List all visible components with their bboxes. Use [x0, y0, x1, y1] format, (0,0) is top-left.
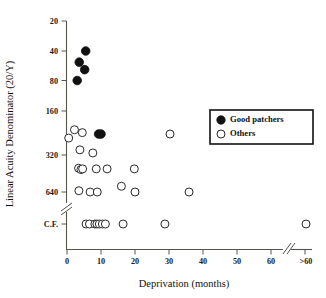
y-tick-label-cf: C.F. [44, 220, 58, 229]
data-point-other [75, 187, 83, 195]
x-axis-break-icon [283, 243, 295, 254]
x-tick-label-30: 30 [165, 257, 173, 266]
data-point-other [103, 165, 111, 173]
data-point-other [79, 165, 87, 173]
legend-marker-others [217, 130, 225, 138]
legend-label-good-patchers: Good patchers [230, 114, 284, 124]
x-tick-label-over60: >60 [300, 257, 313, 266]
scatter-chart: 20 40 80 160 320 640 C.F. 0 10 20 30 40 … [0, 0, 326, 298]
data-point-good-patcher [81, 47, 90, 56]
data-point-other [119, 220, 127, 228]
data-point-other [65, 134, 73, 142]
x-axis-title: Deprivation (months) [139, 278, 230, 290]
data-point-other [70, 126, 78, 134]
x-tick-label-60: 60 [267, 257, 275, 266]
legend-label-others: Others [230, 128, 256, 138]
legend-marker-good-patchers [217, 116, 225, 124]
y-tick-label-80: 80 [50, 77, 58, 86]
data-point-other [161, 220, 169, 228]
data-point-other [302, 220, 310, 228]
x-tick-label-0: 0 [65, 257, 69, 266]
data-point-other [130, 165, 138, 173]
y-tick-label-640: 640 [46, 188, 58, 197]
y-tick-label-320: 320 [46, 151, 58, 160]
legend: Good patchers Others [210, 110, 313, 144]
x-tick-label-10: 10 [97, 257, 105, 266]
x-tick-label-20: 20 [131, 257, 139, 266]
data-point-other [166, 130, 174, 138]
data-point-other [92, 165, 100, 173]
data-point-other [117, 182, 125, 190]
y-axis-title: Linear Acuity Denominator (20/Y) [4, 60, 16, 207]
x-tick-label-40: 40 [199, 257, 207, 266]
data-point-other [101, 220, 109, 228]
data-point-good-patcher [80, 65, 89, 74]
plot-area: 20 40 80 160 320 640 C.F. 0 10 20 30 40 … [0, 0, 326, 298]
y-tick-label-20: 20 [50, 17, 58, 26]
data-point-other [185, 188, 193, 196]
data-point-other [131, 188, 139, 196]
data-point-good-patcher [73, 76, 82, 85]
y-axis-ticks [62, 21, 67, 224]
y-tick-label-40: 40 [50, 47, 58, 56]
y-tick-label-160: 160 [46, 107, 58, 116]
data-point-other [93, 188, 101, 196]
data-point-other [76, 146, 84, 154]
x-axis-ticks [67, 250, 305, 255]
data-point-other [89, 149, 97, 157]
data-point-good-patcher [97, 130, 106, 139]
data-point-other [78, 129, 86, 137]
data-point-good-patcher [75, 58, 84, 67]
x-tick-label-50: 50 [233, 257, 241, 266]
